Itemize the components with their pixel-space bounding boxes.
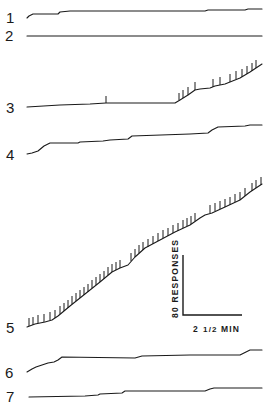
- record-7-label: 7: [6, 388, 14, 405]
- record-4-label: 4: [6, 146, 14, 163]
- record-5-label: 5: [6, 319, 14, 336]
- record-5-trace: [27, 184, 262, 327]
- scale-bar: 80 RESPONSES 2 1/2 MIN: [170, 239, 242, 334]
- scale-bar-horizontal-label-fraction: 1/2: [203, 325, 218, 334]
- record-1-trace: [27, 9, 262, 18]
- record-4: 4: [6, 125, 262, 163]
- record-6-trace: [27, 350, 262, 372]
- record-6: 6: [5, 350, 262, 381]
- record-1: 1: [6, 9, 262, 26]
- record-3-hatch-marks: [106, 60, 256, 103]
- record-7: 7: [6, 388, 262, 405]
- record-6-label: 6: [5, 364, 13, 381]
- record-3-trace: [27, 64, 262, 107]
- cumulative-records-figure: 1 2 3 4 5: [0, 0, 277, 418]
- scale-bar-vertical-label: 80 RESPONSES: [170, 239, 180, 318]
- record-4-trace: [27, 125, 262, 154]
- scale-bar-horizontal-label-number: 2: [193, 324, 199, 334]
- record-2: 2: [5, 27, 262, 44]
- record-3: 3: [6, 60, 262, 116]
- record-5: 5: [6, 177, 262, 336]
- scale-bar-horizontal-label-unit: MIN: [221, 324, 240, 334]
- record-2-label: 2: [5, 27, 13, 44]
- record-1-label: 1: [6, 9, 14, 26]
- record-5-hatch-marks: [29, 177, 261, 326]
- scale-bar-axes: [183, 255, 242, 315]
- record-7-trace: [29, 388, 262, 397]
- record-3-label: 3: [6, 99, 14, 116]
